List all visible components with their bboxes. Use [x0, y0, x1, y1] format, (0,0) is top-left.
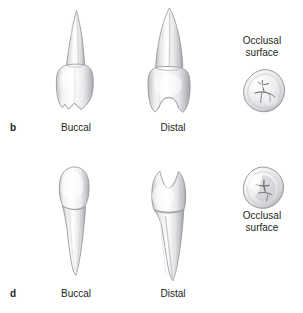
dental-anatomy-figure: b Buccal Distal Occlusal surface — [0, 0, 303, 313]
tooth-occlusal-surface-icon — [238, 164, 290, 212]
panel-letter-b: b — [10, 122, 16, 133]
label-distal: Distal — [133, 122, 213, 133]
tooth-buccal-icon — [47, 161, 105, 283]
label-occlusal-line2: surface — [246, 222, 279, 233]
label-occlusal-surface: Occlusal surface — [222, 210, 302, 234]
panel-b: b Buccal Distal Occlusal surface — [0, 0, 303, 143]
label-buccal: Buccal — [36, 288, 116, 299]
label-buccal: Buccal — [36, 122, 116, 133]
tooth-distal-icon — [138, 5, 202, 119]
tooth-distal-icon — [138, 160, 202, 284]
tooth-occlusal-surface-icon — [238, 66, 290, 116]
panel-letter-d: d — [10, 288, 16, 299]
label-occlusal-surface: Occlusal surface — [222, 35, 302, 59]
label-occlusal-line2: surface — [246, 47, 279, 58]
label-occlusal-line1: Occlusal — [243, 210, 281, 221]
label-occlusal-line1: Occlusal — [243, 35, 281, 46]
panel-d: d Buccal Distal Occlusal surface — [0, 152, 303, 313]
tooth-buccal-icon — [48, 8, 106, 118]
label-distal: Distal — [133, 288, 213, 299]
